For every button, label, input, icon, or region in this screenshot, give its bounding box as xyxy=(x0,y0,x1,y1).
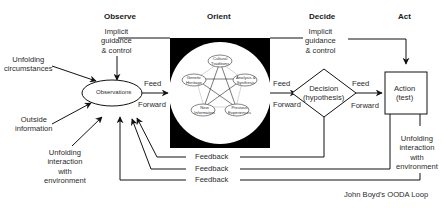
diagram-caption: John Boyd's OODA Loop xyxy=(344,190,428,199)
feed-label-3: Feed xyxy=(352,79,369,88)
decision-label: Decision (hypothesis) xyxy=(303,84,344,103)
forward-label-2: Forward xyxy=(273,100,301,109)
forward-label-1: Forward xyxy=(138,100,166,109)
act-output-unfolding-interaction: Unfolding interaction with environment xyxy=(396,134,438,172)
implicit-guidance-decide: Implicit guidance & control xyxy=(305,27,336,55)
phase-act: Act xyxy=(398,12,411,21)
forward-label-3: Forward xyxy=(351,101,379,110)
feed-label-2: Feed xyxy=(273,79,290,88)
factor-analysis-synthesis: Analysis & Synthesis xyxy=(236,75,256,85)
implicit-guidance-observe: Implicit guidance & control xyxy=(101,27,132,55)
feed-label-1: Feed xyxy=(144,79,161,88)
action-label: Action (test) xyxy=(394,84,415,103)
phase-decide: Decide xyxy=(309,12,335,21)
phase-observe: Observe xyxy=(104,12,136,21)
factor-new-information: New Information xyxy=(194,105,215,115)
observations-label: Observations xyxy=(96,88,131,97)
phase-orient: Orient xyxy=(207,12,231,21)
input-unfolding-interaction: Unfolding interaction with environment xyxy=(44,148,86,186)
input-unfolding-circumstances: Unfolding circumstances xyxy=(4,55,53,74)
feedback-label-2: Feedback xyxy=(195,164,228,173)
factor-previous-experiences: Previous Experiences xyxy=(228,105,251,115)
factor-genetic-heritage: Genetic Heritage xyxy=(186,75,202,85)
feedback-label-1: Feedback xyxy=(195,152,228,161)
ooda-loop-diagram: Observe Orient Decide Act Implicit guida… xyxy=(0,0,446,209)
factor-cultural-traditions: Cultural Traditions xyxy=(211,56,229,66)
input-outside-information: Outside information xyxy=(15,115,53,134)
feedback-label-3: Feedback xyxy=(195,175,228,184)
